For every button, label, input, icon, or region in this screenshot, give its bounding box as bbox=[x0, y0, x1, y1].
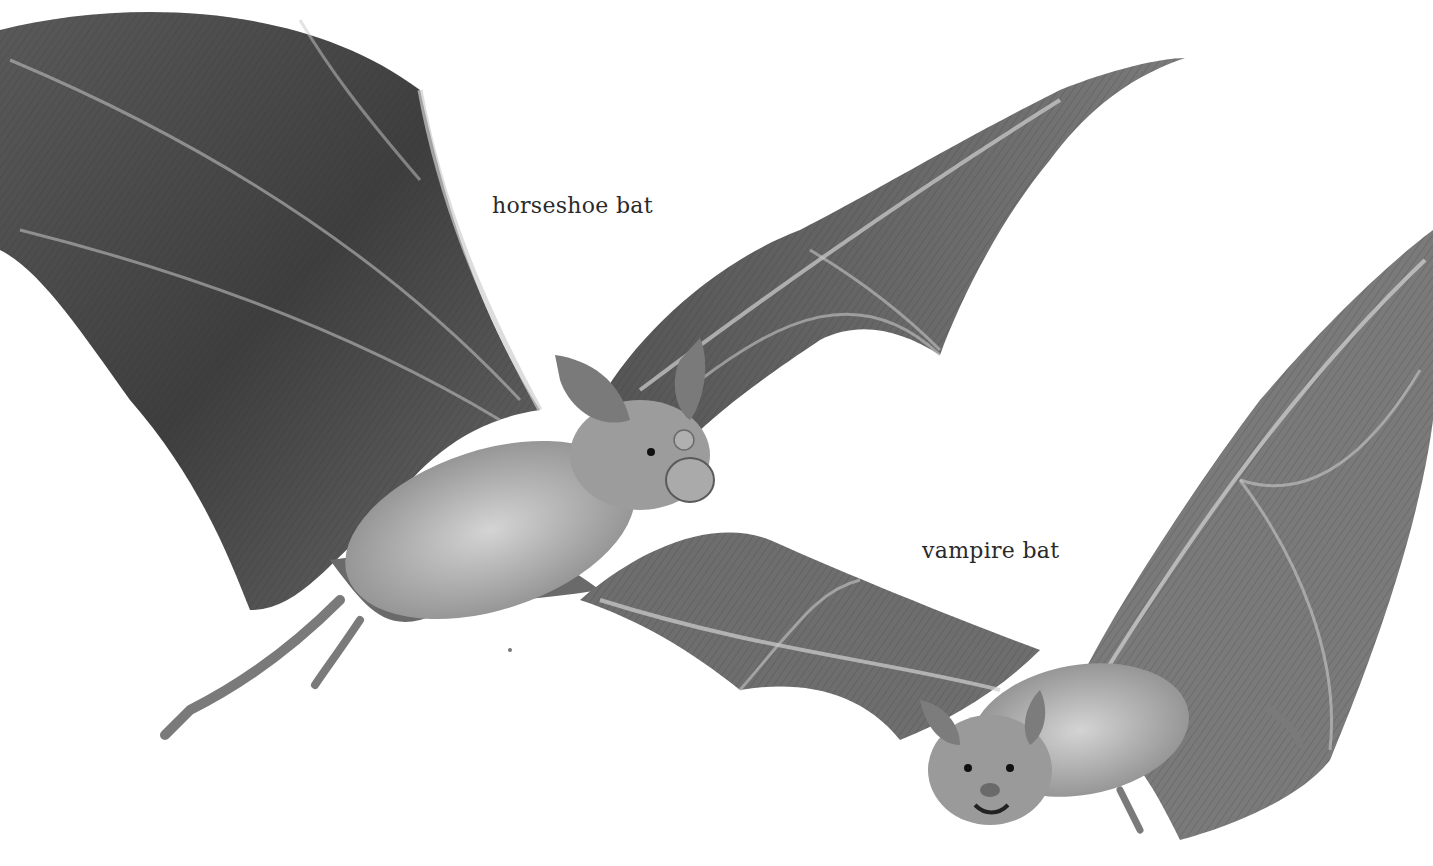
vampire-leg bbox=[1120, 790, 1140, 830]
horseshoe-noseleaf bbox=[666, 458, 714, 502]
vampire-eye-left bbox=[964, 764, 972, 772]
horseshoe-bat-label: horseshoe bat bbox=[492, 193, 653, 218]
horseshoe-leg bbox=[165, 600, 340, 735]
vampire-bat-label: vampire bat bbox=[922, 538, 1059, 563]
horseshoe-eye bbox=[647, 448, 655, 456]
horseshoe-bat bbox=[0, 12, 1185, 735]
vampire-eye-right bbox=[1006, 764, 1014, 772]
bats-illustration bbox=[0, 0, 1433, 866]
illustration: horseshoe bat vampire bat bbox=[0, 0, 1433, 866]
